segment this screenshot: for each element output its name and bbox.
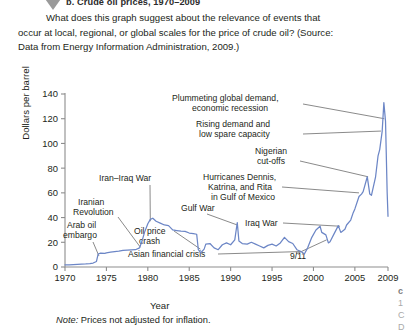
svg-text:1985: 1985 [179, 272, 200, 283]
svg-text:Katrina, and Rita: Katrina, and Rita [208, 182, 272, 192]
svg-text:100: 100 [42, 138, 58, 149]
svg-text:embargo: embargo [63, 230, 97, 240]
y-axis-title: Dollars per barrel [20, 43, 34, 163]
svg-text:20: 20 [48, 237, 58, 248]
svg-text:Iranian: Iranian [78, 197, 104, 207]
figure-label: b. Crude oil prices, 1970–2009 [66, 0, 200, 7]
svg-text:Plummeting global demand,: Plummeting global demand, [172, 93, 279, 103]
svg-text:in Gulf of Mexico: in Gulf of Mexico [211, 192, 275, 202]
svg-text:Iraq War: Iraq War [245, 218, 278, 228]
figure-page: b. Crude oil prices, 1970–2009 What does… [0, 0, 418, 333]
svg-text:0: 0 [53, 261, 58, 272]
svg-text:Gulf War: Gulf War [181, 203, 215, 213]
x-axis-tick-labels: 197019751980198519901995200020052009 [55, 272, 399, 283]
y-axis-tick-labels: 020406080100120140 [42, 88, 58, 272]
svg-text:1990: 1990 [220, 272, 241, 283]
svg-text:Asian financial crisis: Asian financial crisis [128, 249, 205, 259]
figure-note: Note: Prices not adjusted for inflation. [56, 315, 211, 325]
fragment-4: D [398, 321, 416, 333]
svg-text:140: 140 [42, 88, 58, 99]
svg-text:60: 60 [48, 187, 58, 198]
annotation-labels: Arab oilembargoIranianRevolutionIran–Ira… [63, 93, 306, 261]
svg-text:2009: 2009 [378, 272, 399, 283]
svg-text:2005: 2005 [344, 272, 365, 283]
fragment-3: C [398, 309, 416, 321]
svg-text:1995: 1995 [262, 272, 283, 283]
svg-text:9/11: 9/11 [290, 251, 306, 261]
triangle-down-icon [43, 0, 63, 10]
svg-text:low spare capacity: low spare capacity [199, 129, 270, 139]
svg-text:economic recession: economic recession [192, 103, 268, 113]
svg-text:1970: 1970 [55, 272, 76, 283]
x-axis-title: Year [150, 300, 169, 311]
svg-text:Rising demand and: Rising demand and [196, 119, 270, 129]
svg-text:Oil price: Oil price [134, 226, 166, 236]
fragment-2: 1 [398, 297, 416, 309]
note-prefix: Note: [56, 315, 78, 325]
svg-text:1980: 1980 [137, 272, 158, 283]
svg-text:1975: 1975 [96, 272, 117, 283]
svg-text:Revolution: Revolution [73, 207, 114, 217]
svg-text:120: 120 [42, 113, 58, 124]
svg-text:Nigerian: Nigerian [255, 146, 287, 156]
sidebar-cut-off-fragments: c 1 C D [398, 285, 416, 333]
chart-svg: 020406080100120140 197019751980198519901… [0, 86, 400, 291]
svg-text:Iran–Iraq War: Iran–Iraq War [99, 173, 151, 183]
svg-text:Arab oil: Arab oil [67, 220, 96, 230]
svg-text:80: 80 [48, 163, 58, 174]
svg-text:cut-offs: cut-offs [257, 156, 285, 166]
fragment-1: c [398, 285, 416, 297]
svg-text:2000: 2000 [303, 272, 324, 283]
figure-question-text: What does this graph suggest about the r… [18, 11, 336, 55]
svg-text:40: 40 [48, 212, 58, 223]
note-text: Prices not adjusted for inflation. [81, 315, 211, 325]
svg-text:Hurricanes Dennis,: Hurricanes Dennis, [203, 172, 276, 182]
question-body: What does this graph suggest about the r… [18, 12, 333, 52]
crude-oil-price-chart: 020406080100120140 197019751980198519901… [0, 86, 400, 291]
